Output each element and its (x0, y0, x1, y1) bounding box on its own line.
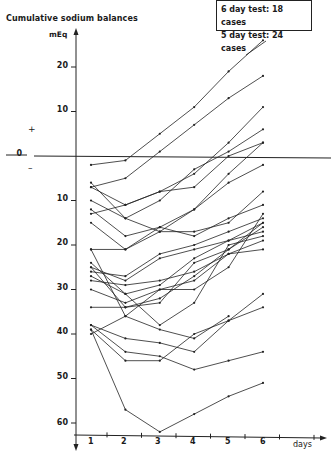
data-point (124, 293, 126, 295)
chart-title: Cumulative sodium balances (6, 14, 138, 23)
data-point (90, 324, 92, 326)
data-point (90, 333, 92, 335)
data-point (124, 159, 126, 161)
plus-sign-label: + (28, 124, 36, 134)
y-tick-label-neg-30: 30 (44, 283, 68, 292)
data-point (228, 231, 230, 233)
data-point (228, 315, 230, 317)
data-point (262, 164, 264, 166)
data-point (193, 337, 195, 339)
data-point (262, 75, 264, 77)
data-point (159, 199, 161, 201)
data-point (228, 142, 230, 144)
data-point (159, 133, 161, 135)
data-point (124, 177, 126, 179)
data-point (193, 369, 195, 371)
data-point (193, 248, 195, 250)
data-point (193, 257, 195, 259)
data-point (159, 302, 161, 304)
data-point (228, 395, 230, 397)
minus-sign-label: – (28, 163, 33, 173)
series-line (91, 294, 263, 352)
data-point (193, 333, 195, 335)
data-point (124, 280, 126, 282)
data-point (124, 351, 126, 353)
data-point (124, 306, 126, 308)
data-point (262, 191, 264, 193)
data-point (90, 199, 92, 201)
data-point (124, 409, 126, 411)
data-point (262, 351, 264, 353)
data-point (159, 284, 161, 286)
y-tick-label-neg-10: 10 (44, 194, 68, 203)
data-point (90, 213, 92, 215)
zero-line (34, 156, 331, 158)
data-point (159, 431, 161, 433)
data-point (124, 217, 126, 219)
data-point (262, 231, 264, 233)
data-point (159, 342, 161, 344)
y-tick-label-neg-40: 40 (44, 327, 68, 336)
series-line (91, 223, 263, 308)
x-tick-label-6: 6 (260, 437, 266, 446)
x-tick-label-1: 1 (88, 437, 94, 446)
legend-box: 6 day test: 18 cases 5 day test: 24 case… (216, 0, 312, 31)
data-point (262, 248, 264, 250)
y-tick-label-pos-20: 20 (44, 61, 68, 70)
data-point (159, 253, 161, 255)
data-point (228, 173, 230, 175)
legend-line-2: 5 day test: 24 cases (221, 29, 307, 55)
data-point (262, 306, 264, 308)
data-point (90, 222, 92, 224)
data-point (90, 306, 92, 308)
data-point (159, 191, 161, 193)
data-point (228, 320, 230, 322)
data-point (262, 142, 264, 144)
data-point (262, 239, 264, 241)
data-point (193, 235, 195, 237)
data-point (193, 208, 195, 210)
x-axis-right-arrow-icon (320, 436, 327, 441)
data-point (124, 235, 126, 237)
data-point (228, 244, 230, 246)
data-point (90, 275, 92, 277)
data-point (228, 253, 230, 255)
series-line (91, 227, 263, 307)
data-point (124, 360, 126, 362)
data-point (193, 106, 195, 108)
data-point (228, 360, 230, 362)
data-point (193, 351, 195, 353)
data-point (124, 275, 126, 277)
data-point (193, 231, 195, 233)
data-point (193, 186, 195, 188)
series-line (91, 107, 263, 214)
data-point (193, 280, 195, 282)
data-point (228, 97, 230, 99)
data-point (90, 262, 92, 264)
data-point (193, 168, 195, 170)
data-point (159, 328, 161, 330)
data-point (124, 204, 126, 206)
data-point (159, 231, 161, 233)
data-point (159, 257, 161, 259)
data-point (262, 382, 264, 384)
y-tick-label-neg-20: 20 (44, 238, 68, 247)
data-point (124, 302, 126, 304)
data-point (124, 315, 126, 317)
data-point (228, 222, 230, 224)
data-point (193, 124, 195, 126)
data-point (90, 208, 92, 210)
data-point (262, 204, 264, 206)
data-point (193, 288, 195, 290)
data-point (262, 226, 264, 228)
data-point (159, 150, 161, 152)
data-point (262, 293, 264, 295)
x-tick-label-2: 2 (121, 437, 127, 446)
x-axis (74, 435, 322, 438)
data-point (124, 337, 126, 339)
series-line (91, 316, 229, 338)
data-point (90, 271, 92, 273)
data-point (262, 235, 264, 237)
y-axis-up-arrow-icon (74, 28, 79, 35)
data-point (193, 271, 195, 273)
